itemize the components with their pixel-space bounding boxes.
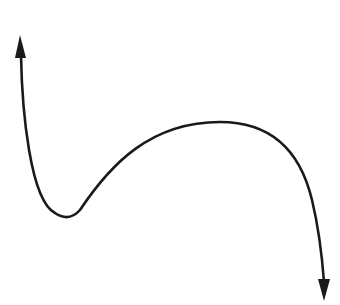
diagram-canvas <box>0 0 340 305</box>
curve-diagram <box>0 0 340 305</box>
arrowhead-up-icon <box>15 35 26 58</box>
arrowhead-down-icon <box>318 279 330 301</box>
curve-path <box>21 55 324 282</box>
